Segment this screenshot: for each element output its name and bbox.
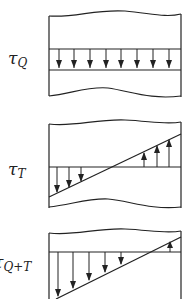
label-tau-q-plus-t: τQ+T xyxy=(0,252,32,274)
label-tau-q: τQ xyxy=(8,48,27,70)
panel-torsion xyxy=(49,120,181,208)
bottom-break-line xyxy=(49,88,181,97)
top-break-line xyxy=(49,229,181,234)
stress-gradient-line xyxy=(49,134,181,197)
panel-combined xyxy=(49,229,181,299)
shear-stress-diagram: τQ τT τQ+T xyxy=(0,0,194,299)
shear-arrows-down xyxy=(56,49,172,68)
top-break-line xyxy=(49,11,181,17)
bottom-break-line xyxy=(49,199,181,208)
label-tau-t: τT xyxy=(8,159,26,181)
panel-direct-shear xyxy=(49,11,181,97)
stress-gradient-line xyxy=(56,237,181,299)
top-break-line xyxy=(49,120,181,125)
